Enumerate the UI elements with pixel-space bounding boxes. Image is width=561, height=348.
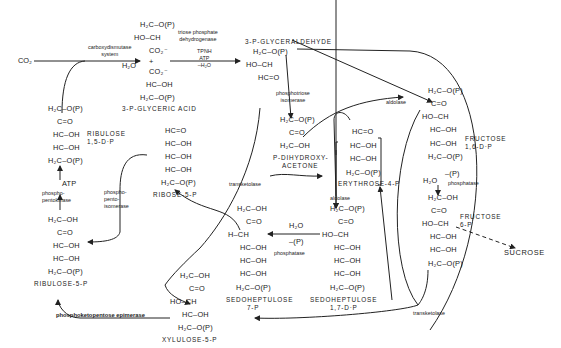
h2o-input: H₂O — [122, 62, 136, 69]
enzyme-triose-dehydrogenase: triose phosphate dehydrogenase — [178, 29, 218, 43]
enzyme-phosphopentokinase: phospho- pentokinase — [42, 190, 71, 204]
label-3pga: 3-P-GLYCERIC ACID — [122, 106, 197, 112]
label-e4p: ERYTHROSE-4-P — [338, 181, 400, 187]
enzyme-phosphatase-fdp: phosphatase — [448, 180, 479, 187]
label-xu5p: XYLULOSE-5-P — [162, 337, 217, 343]
enzyme-pentose-isomerase: phospho- pento- isomerase — [104, 189, 129, 209]
phosphatase-fdp-h2o: H₂O — [423, 177, 438, 184]
label-g3p: 3-P-GLYCERALDEHYDE — [245, 39, 332, 45]
enzyme-aldolase-mid: aldolase — [330, 195, 350, 202]
enzyme-epimerase: phosphoketopentose epimerase — [56, 313, 145, 319]
co2-input: CO₂ — [18, 57, 32, 64]
phosphatase-fdp-p: –(P) — [445, 170, 460, 177]
enzyme-carboxydismutase: carboxydismutase system — [88, 44, 131, 58]
label-ru5p: RIBULOSE-5-P — [34, 281, 88, 287]
enzyme-phosphatase-sdp: phosphatase — [274, 250, 305, 257]
enzyme-transketolase-bottom: transketolase — [413, 310, 445, 317]
enzyme-phosphotriose-isomerase: phosphotriose isomerase — [276, 90, 310, 104]
pentokinase-atp: ATP — [62, 180, 76, 187]
cofactors-tpnh-atp: TPNH ATP –H₂O — [197, 48, 212, 68]
output-sucrose: SUCROSE — [504, 249, 545, 256]
enzyme-aldolase-top: aldolase — [386, 99, 406, 106]
label-r5p: RIBOSE-5-P — [153, 192, 197, 198]
enzyme-transketolase-left: transketolase — [229, 181, 261, 188]
phosphatase-sdp-p: –(P) — [289, 238, 304, 245]
phosphatase-sdp-h2o: H₂O — [289, 222, 304, 229]
